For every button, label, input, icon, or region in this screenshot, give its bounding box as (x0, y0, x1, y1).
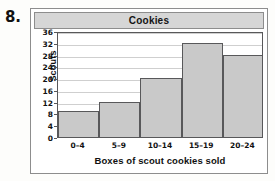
x-axis-title: Boxes of scout cookies sold (57, 155, 263, 166)
plot-box (57, 32, 263, 138)
x-axis-tick-label: 0–4 (57, 141, 98, 150)
y-axis-tick-label: 32 (31, 39, 53, 48)
bar (58, 111, 99, 138)
x-axis-tick-label: 10–14 (139, 141, 180, 150)
y-axis-tick-label: 20 (31, 75, 53, 84)
chart-title: Cookies (129, 15, 169, 26)
bar (182, 43, 223, 137)
bar (140, 78, 181, 137)
y-axis-tick-mark (54, 138, 57, 139)
gridline (58, 33, 262, 34)
y-axis-tick-label: 4 (31, 122, 53, 131)
x-axis-tick-label: 15–19 (181, 141, 222, 150)
y-axis-tick-label: 8 (31, 110, 53, 119)
y-axis-tick-label: 24 (31, 63, 53, 72)
y-axis-tick-label: 16 (31, 86, 53, 95)
gridline (58, 45, 262, 46)
y-axis-tick-label: 12 (31, 98, 53, 107)
plot-area: Scouts 04812162024283236 0–45–910–1415–1… (31, 29, 267, 174)
x-axis-tick-label: 20–24 (222, 141, 263, 150)
chart-panel: Cookies Scouts 04812162024283236 0–45–91… (30, 8, 268, 174)
exercise-figure: 8. Cookies Scouts 04812162024283236 0–45… (0, 0, 275, 181)
question-number: 8. (5, 8, 21, 26)
x-axis-tick-label: 5–9 (98, 141, 139, 150)
y-axis-tick-label: 36 (31, 28, 53, 37)
y-axis-tick-label: 28 (31, 51, 53, 60)
y-axis-tick-label: 0 (31, 134, 53, 143)
bar (99, 102, 140, 137)
bar (223, 55, 263, 137)
chart-title-band: Cookies (34, 12, 264, 29)
